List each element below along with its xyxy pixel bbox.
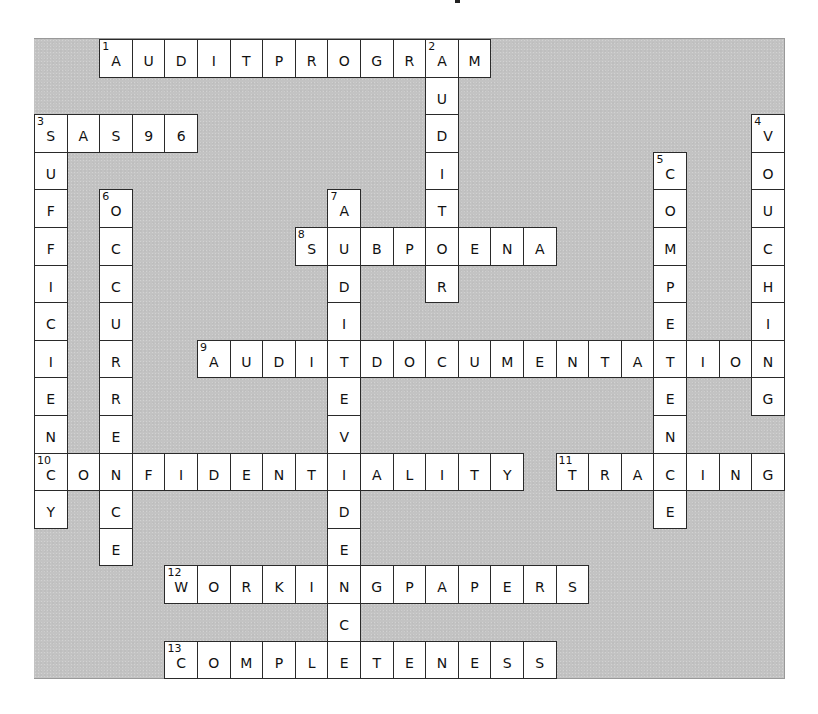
crossword-cell[interactable]: E (99, 415, 133, 454)
crossword-cell[interactable]: A (621, 453, 655, 492)
crossword-cell[interactable]: O (393, 340, 427, 379)
crossword-cell[interactable]: 3S (34, 114, 68, 153)
crossword-cell[interactable]: E (99, 528, 133, 567)
crossword-cell[interactable]: O (719, 340, 753, 379)
crossword-cell[interactable]: R (393, 39, 427, 78)
crossword-cell[interactable]: D (327, 265, 361, 304)
crossword-cell[interactable]: T (230, 39, 264, 78)
crossword-cell[interactable]: T (360, 641, 394, 680)
crossword-cell[interactable]: 13C (164, 641, 198, 680)
crossword-cell[interactable]: M (490, 340, 524, 379)
crossword-cell[interactable]: 4V (751, 114, 785, 153)
crossword-cell[interactable]: 6 (164, 114, 198, 153)
crossword-cell[interactable]: S (556, 565, 590, 604)
crossword-cell[interactable]: O (653, 189, 687, 228)
crossword-cell[interactable]: I (327, 453, 361, 492)
crossword-cell[interactable]: Y (490, 453, 524, 492)
crossword-cell[interactable]: U (327, 227, 361, 266)
crossword-cell[interactable]: N (34, 415, 68, 454)
crossword-cell[interactable]: I (295, 565, 329, 604)
crossword-cell[interactable]: T (653, 340, 687, 379)
crossword-cell[interactable]: 9A (197, 340, 231, 379)
crossword-cell[interactable]: D (164, 39, 198, 78)
crossword-cell[interactable]: E (34, 377, 68, 416)
crossword-cell[interactable]: N (556, 340, 590, 379)
crossword-cell[interactable]: O (425, 227, 459, 266)
crossword-cell[interactable]: I (425, 453, 459, 492)
crossword-cell[interactable]: N (425, 641, 459, 680)
crossword-cell[interactable]: E (458, 641, 492, 680)
crossword-cell[interactable]: 7A (327, 189, 361, 228)
crossword-cell[interactable]: F (132, 453, 166, 492)
crossword-cell[interactable]: C (425, 340, 459, 379)
crossword-cell[interactable]: 12W (164, 565, 198, 604)
crossword-cell[interactable]: C (99, 265, 133, 304)
crossword-cell[interactable]: L (295, 641, 329, 680)
crossword-cell[interactable]: U (132, 39, 166, 78)
crossword-cell[interactable]: 8S (295, 227, 329, 266)
crossword-cell[interactable]: A (360, 453, 394, 492)
crossword-cell[interactable]: S (523, 641, 557, 680)
crossword-cell[interactable]: D (327, 490, 361, 529)
crossword-cell[interactable]: M (653, 227, 687, 266)
crossword-cell[interactable]: E (393, 641, 427, 680)
crossword-cell[interactable]: T (588, 340, 622, 379)
crossword-cell[interactable]: O (197, 565, 231, 604)
crossword-cell[interactable]: S (490, 641, 524, 680)
crossword-cell[interactable]: E (327, 377, 361, 416)
crossword-cell[interactable]: M (458, 39, 492, 78)
crossword-cell[interactable]: U (34, 152, 68, 191)
crossword-cell[interactable]: E (327, 528, 361, 567)
crossword-cell[interactable]: G (751, 453, 785, 492)
crossword-cell[interactable]: E (490, 565, 524, 604)
crossword-cell[interactable]: 2A (425, 39, 459, 78)
crossword-cell[interactable]: 6O (99, 189, 133, 228)
crossword-cell[interactable]: F (34, 227, 68, 266)
crossword-cell[interactable]: D (262, 340, 296, 379)
crossword-cell[interactable]: I (425, 152, 459, 191)
crossword-cell[interactable]: R (99, 340, 133, 379)
crossword-cell[interactable]: P (458, 565, 492, 604)
crossword-cell[interactable]: E (230, 453, 264, 492)
crossword-cell[interactable]: N (719, 453, 753, 492)
crossword-cell[interactable]: 9 (132, 114, 166, 153)
crossword-cell[interactable]: E (653, 302, 687, 341)
crossword-cell[interactable]: 5C (653, 152, 687, 191)
crossword-cell[interactable]: C (327, 603, 361, 642)
crossword-cell[interactable]: 10C (34, 453, 68, 492)
crossword-cell[interactable]: R (230, 565, 264, 604)
crossword-cell[interactable]: U (99, 302, 133, 341)
crossword-cell[interactable]: R (523, 565, 557, 604)
crossword-cell[interactable]: H (751, 265, 785, 304)
crossword-cell[interactable]: D (425, 114, 459, 153)
crossword-cell[interactable]: O (751, 152, 785, 191)
crossword-cell[interactable]: V (327, 415, 361, 454)
crossword-cell[interactable]: U (230, 340, 264, 379)
crossword-cell[interactable]: N (99, 453, 133, 492)
crossword-cell[interactable]: 1A (99, 39, 133, 78)
crossword-cell[interactable]: N (751, 340, 785, 379)
crossword-cell[interactable]: C (751, 227, 785, 266)
crossword-cell[interactable]: T (425, 189, 459, 228)
crossword-cell[interactable]: R (99, 377, 133, 416)
crossword-cell[interactable]: P (653, 265, 687, 304)
crossword-cell[interactable]: A (425, 565, 459, 604)
crossword-cell[interactable]: G (360, 39, 394, 78)
crossword-cell[interactable]: D (197, 453, 231, 492)
crossword-cell[interactable]: B (360, 227, 394, 266)
crossword-cell[interactable]: N (262, 453, 296, 492)
crossword-cell[interactable]: C (34, 302, 68, 341)
crossword-cell[interactable]: D (360, 340, 394, 379)
crossword-cell[interactable]: N (653, 415, 687, 454)
crossword-cell[interactable]: I (34, 340, 68, 379)
crossword-cell[interactable]: E (653, 377, 687, 416)
crossword-cell[interactable]: P (262, 39, 296, 78)
crossword-cell[interactable]: E (653, 490, 687, 529)
crossword-cell[interactable]: U (751, 189, 785, 228)
crossword-cell[interactable]: P (393, 227, 427, 266)
crossword-cell[interactable]: L (393, 453, 427, 492)
crossword-cell[interactable]: I (751, 302, 785, 341)
crossword-cell[interactable]: F (34, 189, 68, 228)
crossword-cell[interactable]: C (653, 453, 687, 492)
crossword-cell[interactable]: I (164, 453, 198, 492)
